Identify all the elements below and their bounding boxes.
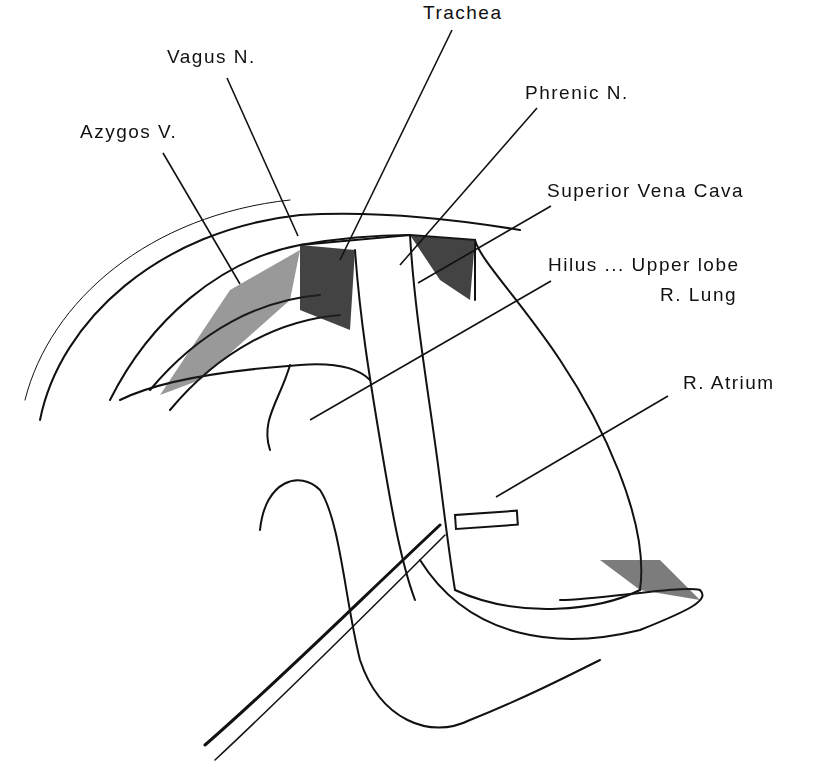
label-right-atrium: R. Atrium	[683, 372, 775, 394]
label-superior-vena-cava: Superior Vena Cava	[547, 180, 744, 202]
label-azygos-vein: Azygos V.	[80, 121, 177, 143]
leader-azygos	[163, 153, 240, 284]
label-trachea: Trachea	[423, 2, 503, 24]
label-vagus-nerve: Vagus N.	[167, 46, 256, 68]
leader-vagus	[227, 78, 298, 236]
anatomical-illustration: Trachea Vagus N. Phrenic N. Azygos V. Su…	[0, 0, 829, 779]
label-phrenic-nerve: Phrenic N.	[525, 82, 629, 104]
label-hilus-upper-lobe: Hilus ... Upper lobe	[548, 254, 740, 276]
label-right-lung: R. Lung	[660, 284, 737, 306]
leader-atrium	[496, 396, 668, 497]
